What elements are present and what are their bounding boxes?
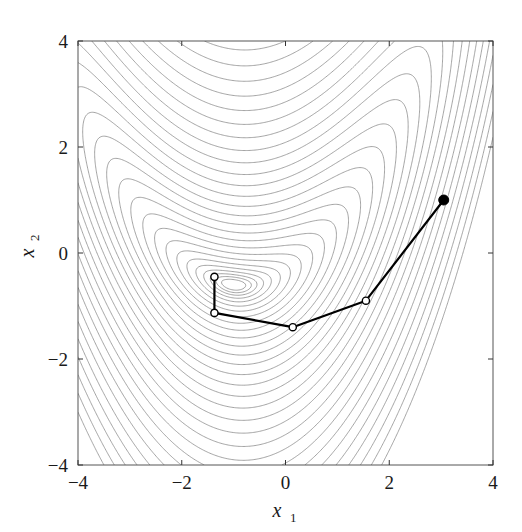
x-axis-title-base: x [272, 499, 282, 521]
y-tick-label: −2 [48, 349, 68, 370]
path-iterate-marker [211, 309, 218, 316]
x-tick-label: 2 [385, 472, 395, 493]
y-tick-label: 4 [59, 31, 69, 52]
path-iterate-marker [362, 297, 369, 304]
y-axis-title-base: x [16, 248, 38, 258]
x-axis-title-sub: 1 [290, 510, 297, 525]
x-tick-label: −2 [172, 472, 192, 493]
y-tick-label: −4 [48, 455, 69, 476]
contour-plot-figure: −4−2024−4−2024 x 1 x 2 [0, 0, 522, 532]
plot-canvas: −4−2024−4−2024 x 1 x 2 [0, 0, 522, 532]
y-axis-title-sub: 2 [27, 235, 42, 242]
path-iterate-marker [211, 273, 218, 280]
x-tick-label: 0 [281, 472, 291, 493]
y-tick-label: 0 [59, 243, 69, 264]
y-tick-label: 2 [59, 137, 69, 158]
x-tick-label: 4 [488, 472, 498, 493]
path-iterate-marker [289, 324, 296, 331]
x-tick-label: −4 [68, 472, 89, 493]
path-start-marker [439, 195, 449, 205]
